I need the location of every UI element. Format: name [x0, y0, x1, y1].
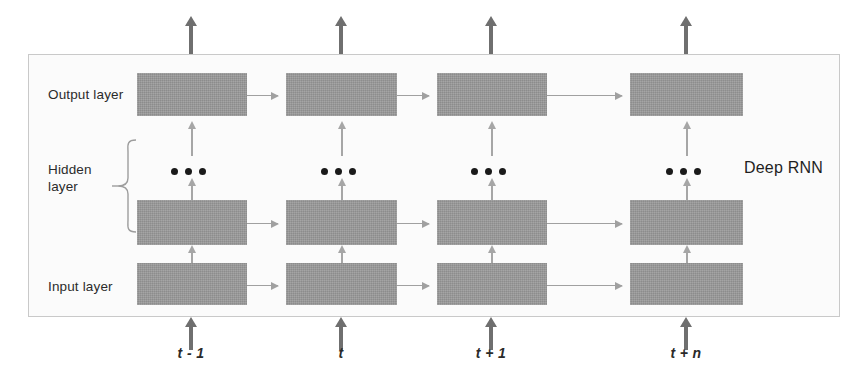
node-hidden-t-plus-n: [630, 200, 743, 245]
layer-label-input: Input layer: [48, 278, 113, 295]
timestep-label-t: t: [296, 345, 386, 361]
recurrent-arrow-input-3: [547, 285, 622, 286]
external-output-arrow-t-minus-1: [189, 25, 193, 54]
feedforward-arrow-stack-to-output-t-minus-1: [191, 128, 193, 156]
recurrent-arrow-input-2: [397, 285, 429, 286]
node-input-t-plus-1: [437, 263, 547, 305]
feedforward-arrow-stack-to-output-t-plus-n: [686, 128, 688, 156]
node-output-t-plus-n: [630, 73, 743, 116]
recurrent-arrow-hidden-3: [547, 223, 622, 224]
hidden-layer-brace: [112, 138, 138, 234]
external-output-arrow-t-plus-1: [489, 25, 493, 54]
feedforward-arrow-hidden-to-stack-t: [341, 185, 343, 200]
deep-rnn-diagram: Output layer Hidden layer Input layer De…: [0, 0, 868, 384]
layer-label-output: Output layer: [48, 86, 123, 103]
diagram-title: Deep RNN: [744, 159, 823, 177]
hidden-stack-ellipsis-t-minus-1: [171, 168, 206, 175]
hidden-stack-ellipsis-t-plus-n: [666, 168, 701, 175]
node-output-t: [286, 73, 397, 116]
node-input-t-plus-n: [630, 263, 743, 305]
external-output-arrow-t: [339, 25, 343, 54]
layer-label-hidden: Hidden layer: [48, 161, 92, 195]
feedforward-arrow-hidden-to-stack-t-plus-n: [686, 185, 688, 200]
feedforward-arrow-hidden-to-stack-t-minus-1: [191, 185, 193, 200]
recurrent-arrow-output-1: [247, 95, 278, 96]
feedforward-arrow-input-to-hidden-t-plus-1: [491, 252, 493, 263]
recurrent-arrow-input-1: [247, 285, 278, 286]
recurrent-arrow-output-3: [547, 95, 622, 96]
feedforward-arrow-stack-to-output-t-plus-1: [491, 128, 493, 156]
node-hidden-t: [286, 200, 397, 245]
recurrent-arrow-hidden-1: [247, 223, 278, 224]
timestep-label-t-minus-1: t - 1: [146, 345, 236, 361]
recurrent-arrow-hidden-2: [397, 223, 429, 224]
hidden-stack-ellipsis-t: [321, 168, 356, 175]
feedforward-arrow-input-to-hidden-t-minus-1: [191, 252, 193, 263]
node-output-t-minus-1: [137, 73, 247, 116]
timestep-label-t-plus-1: t + 1: [446, 345, 536, 361]
node-hidden-t-minus-1: [137, 200, 247, 245]
node-output-t-plus-1: [437, 73, 547, 116]
feedforward-arrow-input-to-hidden-t: [341, 252, 343, 263]
external-output-arrow-t-plus-n: [684, 25, 688, 54]
recurrent-arrow-output-2: [397, 95, 429, 96]
feedforward-arrow-input-to-hidden-t-plus-n: [686, 252, 688, 263]
timestep-label-t-plus-n: t + n: [641, 345, 731, 361]
hidden-stack-ellipsis-t-plus-1: [471, 168, 506, 175]
node-input-t: [286, 263, 397, 305]
node-input-t-minus-1: [137, 263, 247, 305]
feedforward-arrow-hidden-to-stack-t-plus-1: [491, 185, 493, 200]
node-hidden-t-plus-1: [437, 200, 547, 245]
feedforward-arrow-stack-to-output-t: [341, 128, 343, 156]
